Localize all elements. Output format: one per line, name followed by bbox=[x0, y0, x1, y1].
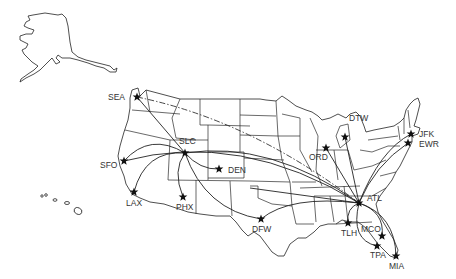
hawaii-islands bbox=[41, 194, 83, 216]
airport-label-sfo: SFO bbox=[100, 160, 118, 170]
airport-label-tpa: TPA bbox=[370, 250, 386, 260]
airport-label-mco: MCO bbox=[361, 224, 381, 234]
airport-label-dfw: DFW bbox=[252, 224, 271, 234]
airport-label-ewr: EWR bbox=[419, 139, 439, 149]
airport-label-slc: SLC bbox=[179, 136, 196, 146]
airport-label-sea: SEA bbox=[108, 92, 125, 102]
airport-label-mia: MIA bbox=[389, 261, 404, 271]
airport-label-tlh: TLH bbox=[341, 228, 357, 238]
airport-label-lax: LAX bbox=[126, 198, 142, 208]
airport-label-ord: ORD bbox=[309, 152, 328, 162]
airport-label-phx: PHX bbox=[176, 202, 194, 212]
airport-label-jfk: JFK bbox=[419, 129, 434, 139]
route-map: SEASLCSFODENLAXPHXDFWORDDTWJFKEWRATLTLHM… bbox=[0, 0, 456, 279]
airport-label-atl: ATL bbox=[367, 193, 382, 203]
alaska-outline bbox=[20, 13, 117, 82]
airport-label-den: DEN bbox=[228, 165, 246, 175]
airport-label-dtw: DTW bbox=[349, 113, 368, 123]
